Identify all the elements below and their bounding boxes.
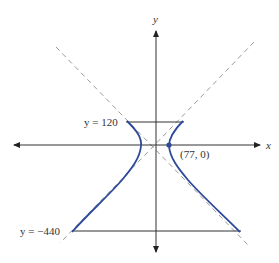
y-axis-label: y — [152, 13, 158, 25]
vertex-point — [166, 142, 171, 147]
label-vertex: (77, 0) — [180, 148, 210, 161]
hyperbola-right-branch — [169, 121, 240, 232]
label-y-120: y = 120 — [84, 116, 118, 128]
asymptote-left — [56, 47, 248, 245]
asymptotes — [56, 42, 254, 245]
hyperbola-diagram: y x y = 120 y = −440 (77, 0) — [0, 0, 279, 263]
x-axis-label: x — [265, 139, 271, 151]
label-y-neg-440: y = −440 — [20, 225, 60, 237]
hyperbola-left-branch — [72, 121, 141, 232]
